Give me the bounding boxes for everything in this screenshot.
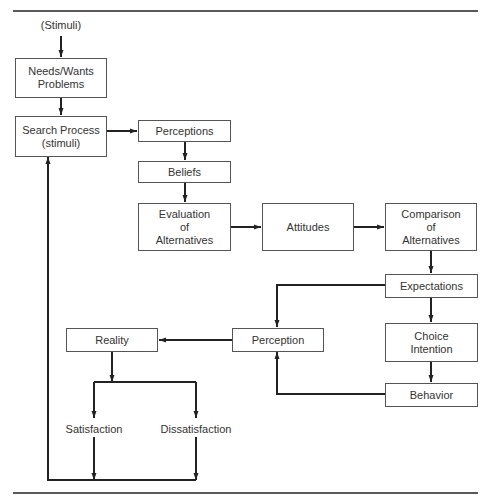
node-expectations: Expectations bbox=[385, 274, 478, 298]
node-perception: Perception bbox=[232, 328, 324, 352]
node-reality: Reality bbox=[66, 328, 158, 352]
node-choice-intention: Choice Intention bbox=[385, 323, 478, 362]
node-attitudes: Attitudes bbox=[262, 203, 354, 251]
node-comparison-of-alternatives: Comparison of Alternatives bbox=[385, 203, 477, 251]
outcome-dissatisfaction: Dissatisfaction bbox=[160, 423, 233, 435]
stimuli-input-label: (Stimuli) bbox=[40, 19, 82, 31]
node-behavior: Behavior bbox=[385, 383, 478, 407]
node-beliefs: Beliefs bbox=[138, 161, 231, 183]
node-perceptions: Perceptions bbox=[138, 120, 231, 142]
node-evaluation-of-alternatives: Evaluation of Alternatives bbox=[138, 203, 231, 251]
arrow-behavior-perception bbox=[277, 352, 385, 394]
outcome-satisfaction: Satisfaction bbox=[65, 423, 124, 435]
node-search-process: Search Process (stimuli) bbox=[15, 116, 107, 157]
arrow-expectations-perception bbox=[277, 285, 385, 327]
node-needs-wants-problems: Needs/Wants Problems bbox=[15, 58, 107, 98]
